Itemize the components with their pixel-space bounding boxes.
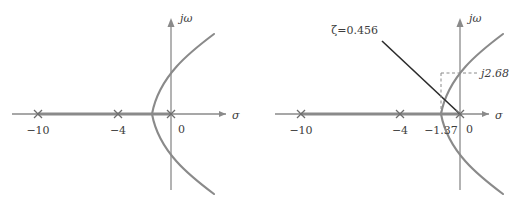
right-plot: −10 −4 −1.37 0 ζ=0.456 j2.68 jω σ (275, 12, 509, 194)
right-axis-label-real: σ (495, 109, 503, 122)
left-label-minus10: −10 (26, 124, 49, 137)
right-label-minus10: −10 (289, 124, 312, 137)
right-imag-axis (457, 18, 464, 190)
left-plot: −10 −4 0 jω σ (12, 12, 240, 194)
zeta-line (382, 41, 461, 115)
left-label-minus4: −4 (110, 124, 126, 137)
left-imag-axis (168, 18, 175, 190)
right-label-real-part: −1.37 (424, 124, 458, 137)
left-axis-label-real: σ (232, 109, 240, 122)
root-locus-figure: −10 −4 0 jω σ (0, 0, 526, 206)
zeta-label: ζ=0.456 (331, 24, 378, 37)
left-label-origin: 0 (178, 123, 185, 136)
imag-crossing-label: j2.68 (478, 67, 509, 80)
right-label-minus4: −4 (392, 124, 408, 137)
right-label-origin: 0 (466, 123, 473, 136)
right-axis-label-imag: jω (466, 12, 481, 25)
left-axis-label-imag: jω (177, 12, 192, 25)
